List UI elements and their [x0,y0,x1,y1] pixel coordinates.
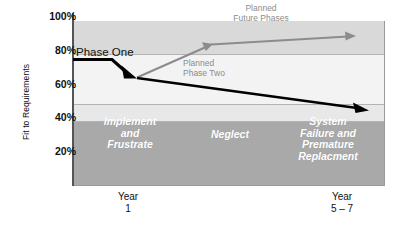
x-tick-year-1: Year1 [88,191,168,215]
x-tick-year-5-7: Year5 – 7 [302,191,382,215]
y-tick-40: 40% [16,112,76,123]
chart-container: Fit to Requirements 100% 80% 60% 40% 20%… [0,0,400,226]
y-tick-80: 80% [16,45,76,56]
callout-phase-one: Phase One [76,46,134,58]
y-axis-line [72,13,74,186]
region-label-implement: Implement and Frustrate [75,116,185,151]
callout-planned-phase-two: Planned Phase Two [183,58,225,78]
x-tick-year-5-7-line2: 5 – 7 [331,203,353,214]
x-tick-year-1-line2: 1 [125,203,131,214]
gridline-60 [73,104,385,105]
band-middle [73,54,385,104]
callout-planned-future-phases: Planned Future Phases [216,3,306,23]
y-tick-60: 60% [16,79,76,90]
x-tick-year-5-7-line1: Year [332,191,352,202]
x-tick-year-1-line1: Year [118,191,138,202]
region-label-neglect: Neglect [185,129,275,141]
y-tick-100: 100% [16,11,76,22]
y-tick-20: 20% [16,146,76,157]
region-label-failure: System Failure and Premature Replacment [272,116,384,162]
